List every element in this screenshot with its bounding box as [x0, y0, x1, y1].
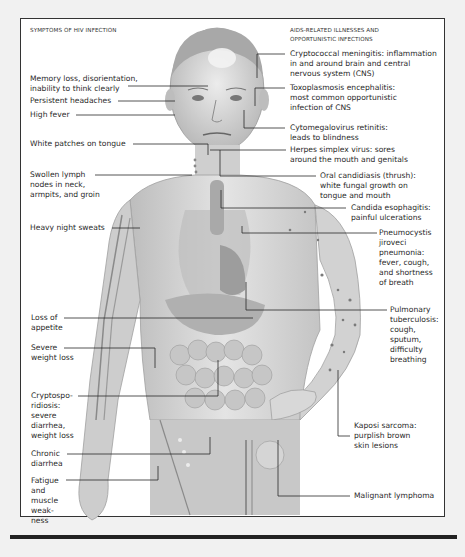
symptom-fatigue: Fatigue and muscle weak- ness [31, 476, 59, 526]
symptom-high-fever: High fever [30, 110, 70, 120]
illness-malignant-lymphoma: Malignant lymphoma [354, 491, 434, 501]
symptom-chronic-diarrhea: Chronic diarrhea [31, 449, 63, 469]
symptom-headaches: Persistent headaches [30, 96, 111, 106]
symptom-loss-of-appetite: Loss of appetite [31, 313, 63, 333]
illness-cytomegalovirus: Cytomegalovirus retinitis: leads to blin… [290, 123, 388, 143]
illness-herpes-simplex: Herpes simplex virus: sores around the m… [290, 145, 408, 165]
symptom-weight-loss: Severe weight loss [31, 343, 74, 363]
head-icon [165, 28, 269, 152]
illness-candida-esophagitis: Candida esophagitis: painful ulcerations [351, 203, 431, 223]
symptom-cryptosporidiosis: Cryptospo- ridiosis: severe diarrhea, we… [31, 391, 74, 441]
illness-toxoplasmosis: Toxoplasmosis encephalitis: most common … [290, 83, 397, 113]
symptom-swollen-lymph-nodes: Swollen lymph nodes in neck, armpits, an… [30, 170, 100, 200]
right-column-header: AIDS-RELATED ILLNESSES AND OPPORTUNISTIC… [290, 26, 379, 44]
symptom-night-sweats: Heavy night sweats [30, 223, 105, 233]
symptom-memory-loss: Memory loss, disorientation, inability t… [30, 74, 138, 94]
symptom-white-patches-tongue: White patches on tongue [30, 139, 126, 149]
illness-kaposi-sarcoma: Kaposi sarcoma: purplish brown skin lesi… [354, 421, 416, 451]
illness-cryptococcal-meningitis: Cryptococcal meningitis: inflammation in… [290, 49, 437, 79]
illness-oral-candidiasis: Oral candidiasis (thrush): white fungal … [320, 171, 416, 201]
intestines [170, 340, 272, 410]
illness-pneumocystis-pneumonia: Pneumocystis jiroveci pneumonia: fever, … [379, 228, 433, 288]
illness-pulmonary-tuberculosis: Pulmonary tuberculosis: cough, sputum, d… [390, 305, 439, 365]
left-column-header: SYMPTOMS OF HIV INFECTION [30, 26, 117, 35]
